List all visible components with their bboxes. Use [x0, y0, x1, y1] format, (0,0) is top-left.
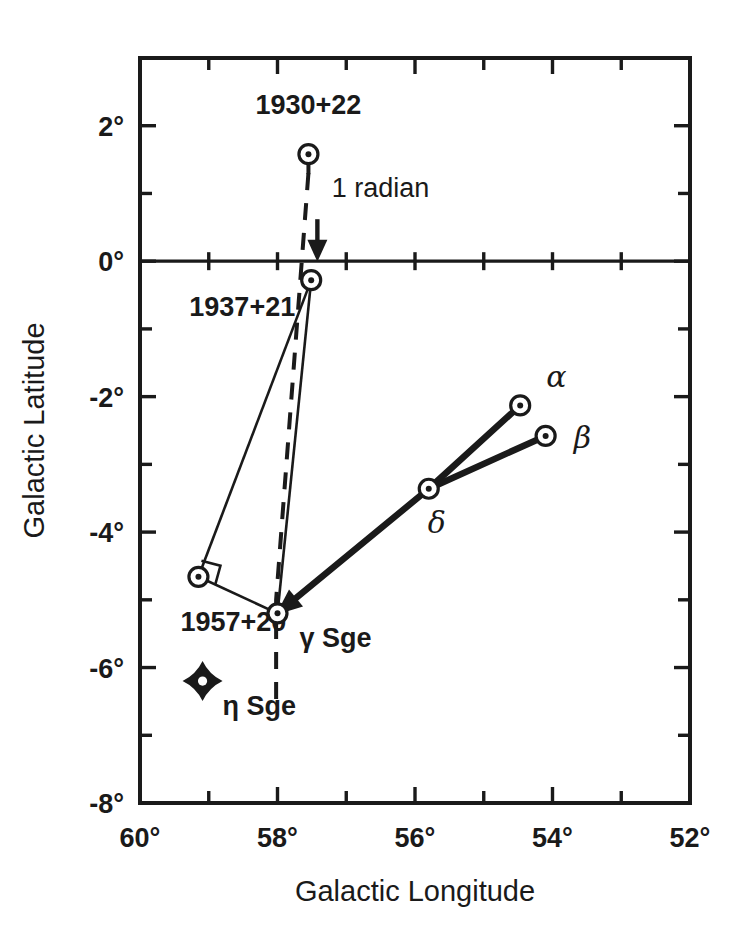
point-label: 1937+21 — [189, 292, 295, 322]
data-point-8: η Sge — [183, 661, 297, 721]
connection-lines — [198, 280, 545, 614]
point-label: 1930+22 — [256, 90, 362, 120]
thin-connection-line — [278, 280, 312, 613]
data-point-1: 1930+22 — [256, 90, 362, 174]
zero-latitude-line — [140, 252, 690, 270]
y-tick-label: -8° — [89, 789, 124, 819]
data-point-7: β — [536, 420, 591, 455]
annotations: 1 radian — [307, 173, 429, 262]
point-label: γ Sge — [300, 623, 372, 653]
y-tick-label: 2° — [98, 112, 124, 142]
chart-svg: 1 radian 1930+221937+211957+20γ Sgeδαβη … — [0, 0, 750, 931]
x-tick-label: 56° — [395, 823, 436, 853]
marker-center-dot — [308, 277, 314, 283]
point-label: β — [573, 420, 591, 455]
thick-constellation-line — [429, 436, 546, 489]
radian-arrow-head — [307, 240, 327, 262]
x-tick-label: 52° — [670, 823, 711, 853]
data-point-5: δ — [419, 479, 446, 540]
radian-annotation-label: 1 radian — [332, 173, 430, 203]
y-tick-label: 0° — [98, 247, 124, 277]
x-tick-label: 60° — [120, 823, 161, 853]
thick-constellation-line — [278, 489, 429, 614]
data-point-3: 1957+20 — [180, 567, 286, 637]
point-label: η Sge — [223, 691, 297, 721]
y-tick-label: -2° — [89, 383, 124, 413]
thin-connection-line — [198, 280, 311, 577]
axis-tick-labels: 2°0°-2°-4°-6°-8°60°58°56°54°52°Galactic … — [18, 112, 710, 907]
star-center-hole — [198, 676, 207, 685]
x-tick-label: 58° — [257, 823, 298, 853]
marker-center-dot — [517, 402, 523, 408]
marker-center-dot — [543, 433, 549, 439]
thick-constellation-line — [429, 405, 520, 488]
marker-center-dot — [305, 151, 311, 157]
marker-center-dot — [275, 610, 281, 616]
x-tick-label: 54° — [532, 823, 573, 853]
point-label: α — [546, 359, 566, 394]
data-point-6: α — [511, 359, 567, 415]
y-tick-label: -6° — [89, 654, 124, 684]
point-label: δ — [428, 505, 446, 540]
y-tick-label: -4° — [89, 518, 124, 548]
galactic-coordinate-chart: 1 radian 1930+221937+211957+20γ Sgeδαβη … — [0, 0, 750, 931]
y-axis-title: Galactic Latitude — [18, 322, 50, 538]
marker-center-dot — [426, 486, 432, 492]
marker-center-dot — [195, 574, 201, 580]
x-axis-title: Galactic Longitude — [295, 875, 535, 907]
